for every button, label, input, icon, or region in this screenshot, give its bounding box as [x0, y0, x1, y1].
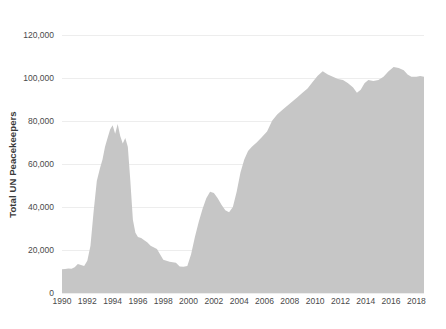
x-tick-label: 2002	[204, 296, 223, 306]
y-tick-label: 20,000	[28, 245, 54, 255]
x-tick-label: 1992	[78, 296, 97, 306]
x-tick-label: 2006	[255, 296, 274, 306]
area-series-total-un-peacekeepers	[62, 24, 424, 293]
x-tick-label: 2016	[382, 296, 401, 306]
x-tick-label: 2018	[407, 296, 426, 306]
y-tick-label: 60,000	[28, 159, 54, 169]
y-axis-tick-labels: 020,00040,00060,00080,000100,000120,000	[0, 0, 58, 329]
plot-area	[62, 24, 424, 293]
x-tick-label: 2000	[179, 296, 198, 306]
y-tick-label: 100,000	[23, 73, 54, 83]
x-tick-label: 1994	[103, 296, 122, 306]
y-tick-label: 120,000	[23, 30, 54, 40]
y-tick-label: 40,000	[28, 202, 54, 212]
x-tick-label: 2010	[306, 296, 325, 306]
x-tick-label: 2014	[356, 296, 375, 306]
x-tick-label: 1990	[53, 296, 72, 306]
y-tick-label: 80,000	[28, 116, 54, 126]
x-tick-label: 1998	[154, 296, 173, 306]
area-path	[62, 67, 424, 293]
x-tick-label: 2008	[280, 296, 299, 306]
gridline	[62, 293, 424, 294]
un-peacekeepers-area-chart: Total UN Peacekeepers 020,00040,00060,00…	[0, 0, 446, 329]
x-tick-label: 2012	[331, 296, 350, 306]
x-tick-label: 1996	[128, 296, 147, 306]
x-tick-label: 2004	[230, 296, 249, 306]
x-axis-tick-labels: 1990199219941996199820002002200420062008…	[62, 296, 424, 314]
